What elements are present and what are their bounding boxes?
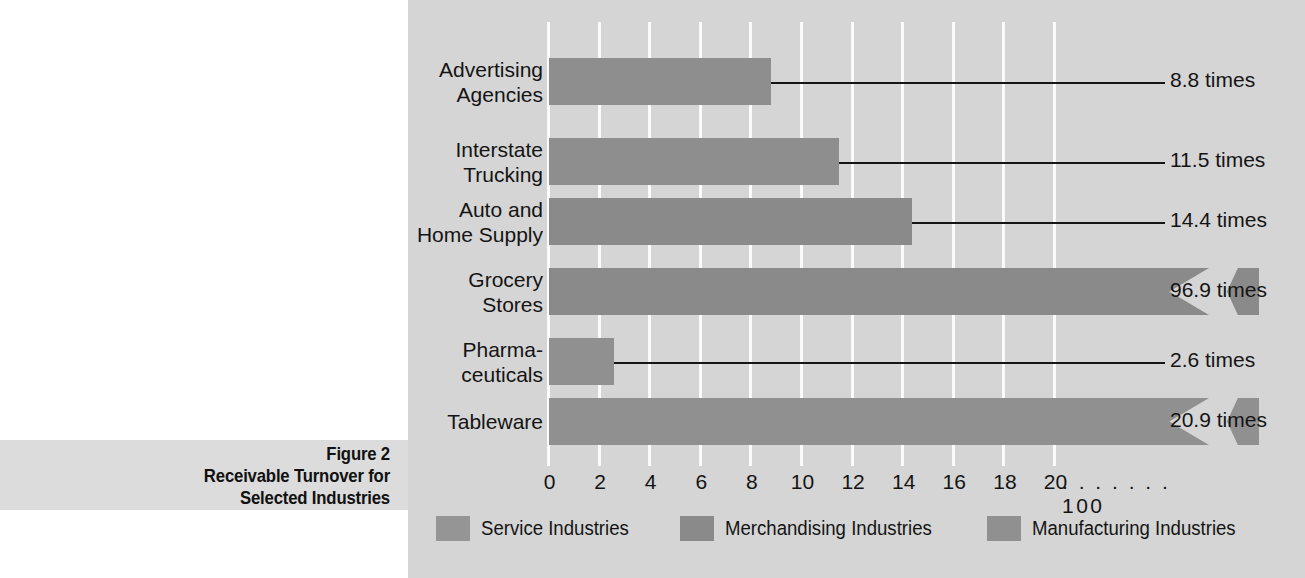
legend-label: Service Industries (481, 517, 629, 540)
axis-tick-label: 4 (628, 470, 674, 494)
category-label: AdvertisingAgencies (313, 57, 543, 107)
category-label-line: Tableware (313, 409, 543, 434)
bar (549, 58, 771, 105)
leader-line (839, 162, 1165, 164)
axis-tick (901, 455, 904, 466)
category-label-line: Interstate (313, 137, 543, 162)
bar (549, 138, 839, 185)
category-label-line: ceuticals (313, 362, 543, 387)
legend-swatch (436, 516, 470, 541)
axis-tick (547, 455, 550, 466)
category-label: Auto andHome Supply (313, 197, 543, 247)
category-label: InterstateTrucking (313, 137, 543, 187)
axis-tick-label: 18 (982, 470, 1028, 494)
caption-line-figure-number: Figure 2 (47, 443, 390, 465)
axis-break-label: . . . . . . . 100 (1062, 470, 1172, 518)
axis-tick (749, 455, 752, 466)
category-label-line: Home Supply (313, 222, 543, 247)
axis-tick (800, 455, 803, 466)
axis-tick (1053, 455, 1056, 466)
bar (549, 268, 1209, 315)
value-label: 96.9 times (1170, 278, 1267, 302)
gridline (1002, 22, 1005, 462)
axis-tick (851, 455, 854, 466)
leader-line (771, 82, 1165, 84)
figure-caption: Figure 2 Receivable Turnover for Selecte… (47, 443, 390, 509)
axis-tick-label: 8 (729, 470, 775, 494)
bar (549, 198, 912, 245)
bar (549, 338, 614, 385)
axis-tick-label: 2 (577, 470, 623, 494)
gridline (1053, 22, 1056, 462)
axis-tick (648, 455, 651, 466)
category-label: Pharma-ceuticals (313, 337, 543, 387)
axis-tick (952, 455, 955, 466)
category-label-line: Pharma- (313, 337, 543, 362)
axis-tick (598, 455, 601, 466)
category-label-line: Stores (313, 292, 543, 317)
legend-item: Service Industries (436, 516, 640, 541)
legend-item: Merchandising Industries (680, 516, 947, 541)
value-label: 11.5 times (1170, 148, 1265, 172)
value-label: 14.4 times (1170, 208, 1267, 232)
legend-label: Merchandising Industries (725, 517, 932, 540)
leader-line (912, 222, 1165, 224)
axis-tick-label: 12 (830, 470, 876, 494)
chart-panel: 02468101214161820. . . . . . . 100 Adver… (408, 0, 1305, 578)
caption-line-title-2: Selected Industries (47, 487, 390, 509)
axis-tick-label: 14 (881, 470, 927, 494)
axis-tick-label: 10 (780, 470, 826, 494)
chart-legend: Service IndustriesMerchandising Industri… (408, 516, 1305, 541)
legend-swatch (680, 516, 714, 541)
axis-tick-label: 6 (678, 470, 724, 494)
axis-tick-label: 16 (931, 470, 977, 494)
value-label: 2.6 times (1170, 348, 1255, 372)
axis-baseline (548, 455, 1168, 457)
axis-tick (1002, 455, 1005, 466)
value-label: 8.8 times (1170, 68, 1255, 92)
category-label-line: Auto and (313, 197, 543, 222)
category-label-line: Grocery (313, 267, 543, 292)
category-label-line: Agencies (313, 82, 543, 107)
leader-line (614, 362, 1165, 364)
category-label: GroceryStores (313, 267, 543, 317)
bar (549, 398, 1209, 445)
figure-page: Figure 2 Receivable Turnover for Selecte… (0, 0, 1305, 578)
legend-item: Manufacturing Industries (987, 516, 1251, 541)
legend-swatch (987, 516, 1021, 541)
axis-tick-label: 0 (527, 470, 573, 494)
gridline (952, 22, 955, 462)
category-label-line: Advertising (313, 57, 543, 82)
category-label-line: Trucking (313, 162, 543, 187)
axis-tick (699, 455, 702, 466)
category-label: Tableware (313, 409, 543, 434)
caption-line-title-1: Receivable Turnover for (47, 465, 390, 487)
legend-label: Manufacturing Industries (1032, 517, 1236, 540)
value-label: 20.9 times (1170, 408, 1267, 432)
